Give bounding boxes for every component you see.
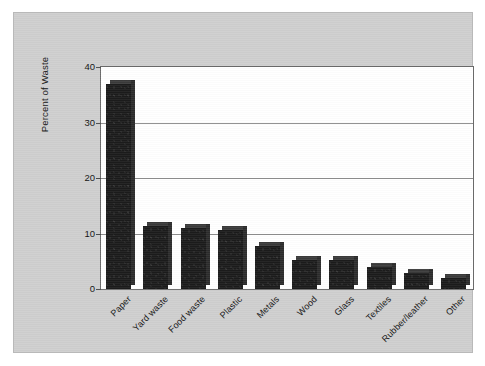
y-tick-mark bbox=[96, 67, 101, 68]
bar bbox=[143, 226, 168, 289]
x-tick-label: Other bbox=[444, 294, 467, 317]
y-tick-label: 10 bbox=[75, 229, 95, 239]
y-tick-label: 30 bbox=[75, 118, 95, 128]
bar-side-face bbox=[280, 242, 284, 285]
bar-side-face bbox=[466, 274, 470, 285]
bar-front-face bbox=[329, 260, 354, 289]
bar-chart-card: Percent of Waste 010203040 PaperYard was… bbox=[13, 12, 473, 353]
bar bbox=[367, 267, 392, 289]
bar-front-face bbox=[255, 246, 280, 289]
bar bbox=[255, 246, 280, 289]
y-tick-mark bbox=[96, 123, 101, 124]
bar bbox=[404, 273, 429, 289]
bar-front-face bbox=[292, 260, 317, 289]
y-tick-label: 20 bbox=[75, 173, 95, 183]
gridline bbox=[101, 178, 473, 179]
x-tick-label: Plastic bbox=[218, 294, 244, 320]
bar-side-face bbox=[317, 256, 321, 285]
x-tick-label: Textiles bbox=[364, 294, 393, 323]
bar-front-face bbox=[441, 278, 466, 289]
bar bbox=[292, 260, 317, 289]
plot-area: 010203040 bbox=[100, 66, 474, 290]
figure-root: Percent of Waste 010203040 PaperYard was… bbox=[0, 0, 485, 366]
y-tick-label: 0 bbox=[75, 284, 95, 294]
gridline bbox=[101, 123, 473, 124]
x-tick-label: Glass bbox=[332, 294, 356, 318]
x-tick-label: Rubber/leather bbox=[380, 294, 430, 344]
bar bbox=[441, 278, 466, 289]
bar bbox=[218, 230, 243, 289]
bar-front-face bbox=[404, 273, 429, 289]
y-tick-mark bbox=[96, 178, 101, 179]
bar-front-face bbox=[143, 226, 168, 289]
bar-side-face bbox=[131, 80, 135, 285]
bar bbox=[181, 228, 206, 289]
y-tick-mark bbox=[96, 289, 101, 290]
bar bbox=[106, 84, 131, 289]
bar-front-face bbox=[218, 230, 243, 289]
x-tick-label: Wood bbox=[295, 294, 319, 318]
bar-side-face bbox=[354, 256, 358, 285]
x-tick-label: Paper bbox=[108, 294, 132, 318]
x-tick-label: Food waste bbox=[166, 294, 207, 335]
bar-front-face bbox=[181, 228, 206, 289]
y-tick-mark bbox=[96, 234, 101, 235]
bar-front-face bbox=[106, 84, 131, 289]
bar-side-face bbox=[429, 269, 433, 285]
x-tick-label: Metals bbox=[255, 294, 281, 320]
bar-side-face bbox=[243, 226, 247, 285]
bar bbox=[329, 260, 354, 289]
bar-side-face bbox=[206, 224, 210, 285]
bar-side-face bbox=[392, 263, 396, 285]
bar-side-face bbox=[168, 222, 172, 285]
y-axis-title: Percent of Waste bbox=[39, 25, 50, 165]
x-tick-label: Yard waste bbox=[131, 294, 170, 333]
bar-front-face bbox=[367, 267, 392, 289]
y-tick-label: 40 bbox=[75, 62, 95, 72]
